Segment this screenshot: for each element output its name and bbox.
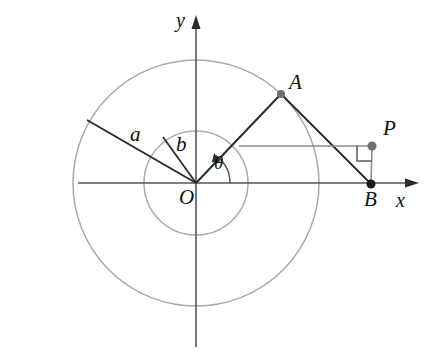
vertical-construction-line	[371, 146, 372, 184]
label-x-axis: x	[396, 190, 405, 210]
label-point-B: B	[364, 189, 377, 210]
label-y-axis: y	[176, 10, 185, 30]
point-P-marker	[368, 142, 377, 151]
y-axis-arrowhead	[192, 15, 201, 29]
segment-OA	[196, 94, 281, 183]
segment-AB	[281, 94, 371, 184]
label-b: b	[176, 134, 187, 155]
figure-canvas	[0, 0, 444, 357]
label-point-A: A	[289, 72, 302, 93]
point-A-marker	[277, 90, 285, 98]
label-point-P: P	[383, 118, 396, 139]
label-theta: θ	[214, 153, 223, 172]
geometry-figure: a b θ O A B P x y	[0, 0, 444, 357]
label-origin: O	[179, 187, 194, 208]
label-a: a	[130, 124, 141, 145]
x-axis-arrowhead	[405, 179, 419, 188]
